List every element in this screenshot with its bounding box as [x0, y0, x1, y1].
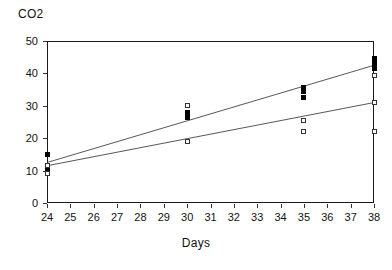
- data-point-filled: [185, 115, 190, 120]
- x-tick-label: 37: [339, 212, 363, 223]
- data-point-open: [301, 129, 306, 134]
- data-point-open: [45, 171, 50, 176]
- data-point-open: [372, 129, 377, 134]
- x-tick-mark: [47, 204, 48, 208]
- x-tick-label: 24: [35, 212, 59, 223]
- x-tick-label: 34: [269, 212, 293, 223]
- data-point-filled: [372, 66, 377, 71]
- y-tick-label: 50: [8, 36, 38, 46]
- data-point-open: [301, 118, 306, 123]
- x-tick-mark: [164, 204, 165, 208]
- x-tick-label: 38: [362, 212, 386, 223]
- x-tick-mark: [351, 204, 352, 208]
- x-axis-title: Days: [0, 236, 392, 250]
- x-tick-label: 29: [152, 212, 176, 223]
- y-tick-label: 30: [8, 101, 38, 111]
- x-tick-mark: [70, 204, 71, 208]
- x-tick-label: 36: [315, 212, 339, 223]
- x-tick-label: 28: [128, 212, 152, 223]
- y-tick-mark: [43, 106, 47, 107]
- x-tick-label: 26: [82, 212, 106, 223]
- x-tick-label: 25: [58, 212, 82, 223]
- y-tick-mark: [43, 138, 47, 139]
- x-tick-label: 27: [105, 212, 129, 223]
- scatter-chart: CO2 01020304050 242526272829303132333435…: [0, 0, 392, 270]
- y-tick-label: 20: [8, 133, 38, 143]
- x-tick-mark: [374, 204, 375, 208]
- plot-area: [47, 41, 374, 203]
- x-tick-label: 33: [245, 212, 269, 223]
- x-tick-mark: [234, 204, 235, 208]
- data-point-filled: [301, 95, 306, 100]
- data-point-open: [45, 163, 50, 168]
- x-tick-label: 30: [175, 212, 199, 223]
- y-axis-title: CO2: [18, 7, 44, 21]
- data-point-filled: [45, 152, 50, 157]
- data-point-open: [372, 100, 377, 105]
- y-tick-mark: [43, 41, 47, 42]
- x-tick-label: 32: [222, 212, 246, 223]
- x-tick-mark: [140, 204, 141, 208]
- x-tick-mark: [117, 204, 118, 208]
- x-tick-mark: [281, 204, 282, 208]
- x-tick-mark: [327, 204, 328, 208]
- y-tick-label: 0: [8, 198, 38, 208]
- x-tick-label: 35: [292, 212, 316, 223]
- x-tick-label: 31: [199, 212, 223, 223]
- x-tick-mark: [304, 204, 305, 208]
- data-point-open: [372, 73, 377, 78]
- y-tick-mark: [43, 73, 47, 74]
- x-tick-mark: [257, 204, 258, 208]
- x-tick-mark: [187, 204, 188, 208]
- data-point-open: [185, 103, 190, 108]
- y-tick-label: 10: [8, 166, 38, 176]
- y-tick-label: 40: [8, 68, 38, 78]
- data-point-filled: [301, 89, 306, 94]
- x-tick-mark: [211, 204, 212, 208]
- data-point-open: [185, 139, 190, 144]
- x-tick-mark: [94, 204, 95, 208]
